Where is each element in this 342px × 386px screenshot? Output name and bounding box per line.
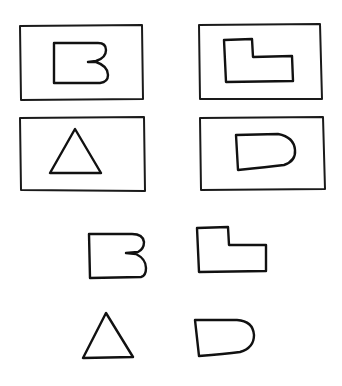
box-frame [199, 24, 322, 99]
loose-triangle-icon [83, 313, 133, 358]
box-top-right [199, 24, 322, 99]
b-shape-icon [54, 43, 108, 83]
box-frame [20, 25, 143, 100]
l-shape-icon [224, 39, 293, 82]
d-shape-icon [236, 134, 295, 170]
box-top-left [20, 25, 143, 100]
triangle-icon [50, 129, 101, 173]
diagram-canvas [0, 0, 342, 386]
box-bottom-right [200, 117, 325, 190]
loose-b-shape-icon [89, 234, 146, 278]
box-frame [200, 117, 325, 190]
loose-l-shape-icon [197, 227, 266, 272]
box-bottom-left [20, 117, 145, 191]
box-frame [20, 117, 145, 191]
loose-d-shape-icon [195, 320, 254, 356]
